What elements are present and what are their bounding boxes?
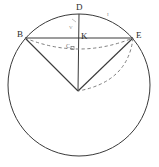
label-mark-v: V <box>69 25 73 30</box>
geometry-figure: D B E K C I V <box>0 0 159 167</box>
label-point-b: B <box>17 30 23 39</box>
label-point-e: E <box>136 31 142 40</box>
segment-d-apex-line <box>78 14 79 91</box>
tick-mark-v <box>72 19 76 22</box>
triangle-side-b-apex <box>25 38 78 91</box>
label-point-k: K <box>81 32 88 41</box>
label-arc-i: I <box>107 12 109 17</box>
geometry-diagram <box>0 0 159 167</box>
label-point-d: D <box>76 3 83 12</box>
label-point-c: C <box>66 43 70 49</box>
